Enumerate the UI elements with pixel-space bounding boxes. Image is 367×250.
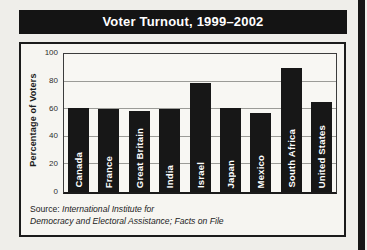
bar-label-mexico: Mexico (255, 155, 266, 188)
bar-france: France (98, 109, 119, 192)
figure-voter-turnout: Voter Turnout, 1999–2002 Percentage of V… (0, 0, 367, 250)
plot-area: CanadaFranceGreat BritainIndiaIsraelJapa… (63, 53, 337, 194)
y-axis-ticks: 020406080100 (30, 53, 58, 192)
bar-group: CanadaFranceGreat BritainIndiaIsraelJapa… (64, 54, 336, 192)
bar-canada: Canada (68, 108, 89, 192)
bar-label-japan: Japan (225, 160, 236, 188)
bar-united-states: United States (311, 102, 332, 192)
bar-great-britain: Great Britain (129, 111, 150, 192)
bar-label-south-africa: South Africa (286, 129, 297, 188)
bar-label-united-states: United States (316, 125, 327, 188)
chart-title-banner: Voter Turnout, 1999–2002 (19, 10, 347, 34)
bar-label-france: France (103, 156, 114, 188)
bar-label-israel: Israel (195, 162, 206, 188)
source-prefix: Source: (30, 204, 62, 214)
bar-label-great-britain: Great Britain (134, 128, 145, 188)
y-tick-0: 0 (54, 188, 58, 196)
source-note: Source: International Institute for Demo… (30, 203, 330, 228)
y-tick-40: 40 (49, 132, 58, 140)
chart-title: Voter Turnout, 1999–2002 (102, 14, 263, 30)
y-tick-60: 60 (49, 105, 58, 113)
source-line1: International Institute for (62, 204, 154, 214)
y-tick-100: 100 (45, 49, 58, 57)
bar-label-india: India (164, 165, 175, 188)
y-tick-20: 20 (49, 160, 58, 168)
source-line2: Democracy and Electoral Assistance; Fact… (30, 216, 224, 226)
bar-mexico: Mexico (250, 113, 271, 192)
y-tick-80: 80 (49, 77, 58, 85)
bar-israel: Israel (190, 83, 211, 192)
bar-japan: Japan (220, 108, 241, 192)
bar-india: India (159, 109, 180, 192)
page-edge-band (358, 0, 365, 250)
bar-label-canada: Canada (73, 152, 84, 188)
bar-south-africa: South Africa (281, 68, 302, 192)
